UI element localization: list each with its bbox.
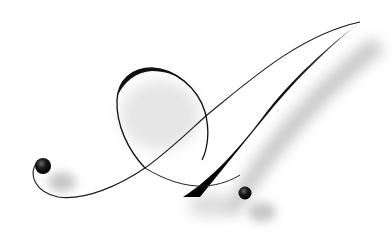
- drop-shadow: [48, 38, 385, 222]
- calligraphic-letter-a: [0, 0, 392, 239]
- artwork-canvas: A: [0, 0, 392, 239]
- left-terminal-ball: [35, 158, 51, 174]
- main-diagonal-stroke: [183, 22, 360, 197]
- loop-tail: [145, 168, 240, 186]
- period-dot: [239, 187, 252, 200]
